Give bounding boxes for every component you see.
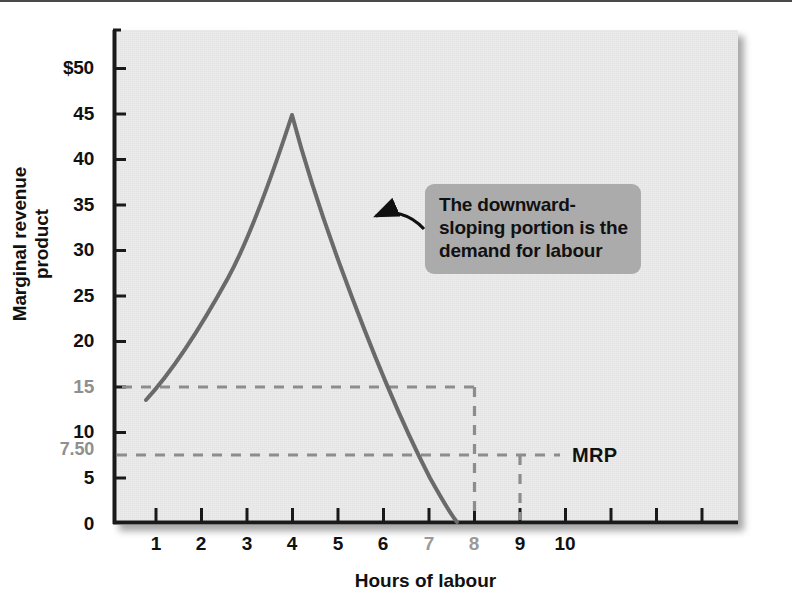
y-tick-label-7-50: 7.50: [2, 440, 94, 458]
callout-line-3: demand for labour: [439, 239, 628, 262]
y-axis-title: Marginal revenue product: [9, 139, 53, 349]
x-axis-title: Hours of labour: [113, 570, 738, 592]
x-tick-label-9: 9: [500, 534, 540, 553]
demand-callout: The downward- sloping portion is the dem…: [425, 184, 641, 274]
y-tick-label-50: $50: [2, 58, 94, 77]
x-tick-label-2: 2: [181, 534, 221, 553]
axis-lines: [113, 30, 738, 524]
series-label-mrp: MRP: [572, 444, 617, 467]
x-tick-label-1: 1: [136, 534, 176, 553]
callout-arrow: [376, 213, 424, 229]
x-tick-label-7: 7: [409, 534, 449, 553]
x-tick-label-3: 3: [227, 534, 267, 553]
x-tick-label-5: 5: [318, 534, 358, 553]
x-tick-label-10: 10: [545, 534, 585, 553]
y-tick-label-15: 15: [2, 377, 94, 396]
y-tick-label-0: 0: [2, 514, 94, 533]
chart-figure: $50 45 40 35 30 25 20 15 10 7.50 5 0 1 2…: [0, 0, 792, 615]
x-tick-label-6: 6: [363, 534, 403, 553]
x-tick-marks: [156, 508, 702, 522]
mrp-curve: [146, 115, 457, 522]
callout-line-2: sloping portion is the: [439, 216, 628, 239]
x-tick-label-8: 8: [454, 534, 494, 553]
x-tick-label-4: 4: [272, 534, 312, 553]
chart-artwork: [0, 0, 792, 615]
callout-line-1: The downward-: [439, 193, 628, 216]
y-tick-label-5: 5: [2, 468, 94, 487]
y-tick-label-45: 45: [2, 104, 94, 123]
